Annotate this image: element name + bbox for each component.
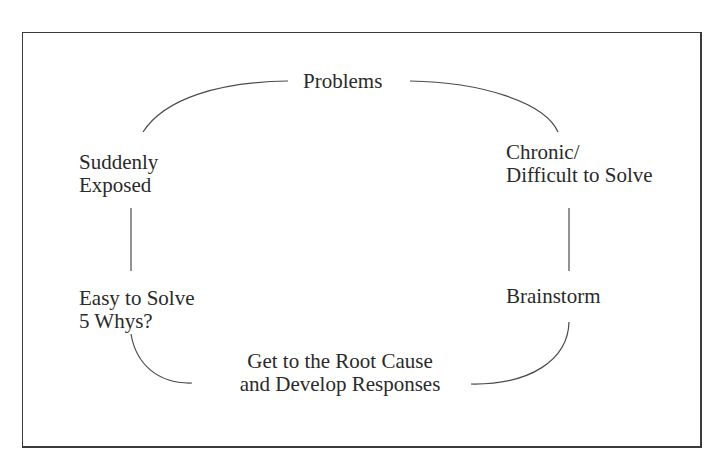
- node-problems: Problems: [303, 70, 382, 93]
- node-chronic-line-1: Chronic/: [506, 141, 653, 164]
- connector-brainstorm-to-root-cause: [471, 322, 569, 384]
- node-brainstorm-line-1: Brainstorm: [506, 285, 601, 308]
- node-chronic: Chronic/ Difficult to Solve: [506, 141, 653, 187]
- node-easy-to-solve-line-1: Easy to Solve: [79, 287, 195, 310]
- node-suddenly-exposed-line-2: Exposed: [79, 174, 158, 197]
- node-easy-to-solve-line-2: 5 Whys?: [79, 310, 195, 333]
- connector-easy-to-root-cause: [131, 334, 192, 383]
- node-suddenly-exposed-line-1: Suddenly: [79, 151, 158, 174]
- node-suddenly-exposed: Suddenly Exposed: [79, 151, 158, 197]
- node-problems-line-1: Problems: [303, 70, 382, 93]
- node-chronic-line-2: Difficult to Solve: [506, 164, 653, 187]
- node-root-cause-line-2: and Develop Responses: [222, 373, 458, 396]
- node-root-cause-line-1: Get to the Root Cause: [222, 350, 458, 373]
- connector-problems-to-suddenly-exposed: [143, 81, 288, 132]
- connector-problems-to-chronic: [410, 81, 558, 132]
- node-root-cause: Get to the Root Cause and Develop Respon…: [222, 350, 458, 396]
- node-easy-to-solve: Easy to Solve 5 Whys?: [79, 287, 195, 333]
- node-brainstorm: Brainstorm: [506, 285, 601, 308]
